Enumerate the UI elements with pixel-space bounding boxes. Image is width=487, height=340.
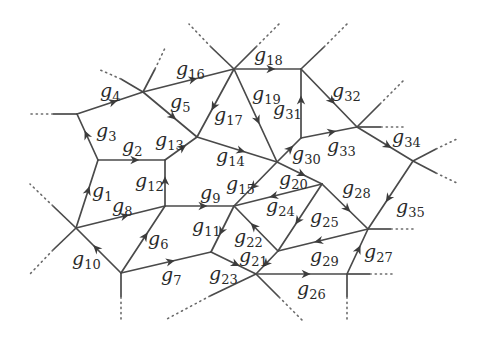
edge-label-g4: g4 — [100, 79, 120, 104]
edge-label-g24: g24 — [266, 194, 295, 219]
edge-label-g29: g29 — [310, 244, 339, 269]
edge-label-g22: g22 — [234, 225, 263, 250]
edge-label-g27: g27 — [364, 240, 393, 265]
edge-label-g35: g35 — [396, 195, 425, 220]
edge-label-g15: g15 — [226, 172, 255, 197]
edge-label-g25: g25 — [310, 205, 339, 230]
edge-g31 — [297, 69, 305, 138]
dangling-edge — [357, 81, 403, 127]
dangling-edge — [143, 46, 166, 92]
dangling-edge — [301, 24, 347, 69]
edge-label-g16: g16 — [176, 57, 205, 82]
dangling-edge — [30, 228, 76, 274]
directed-graph-diagram: g1g2g3g4g5g6g7g8g9g10g11g12g13g14g15g16g… — [0, 0, 487, 340]
dangling-edge — [189, 24, 234, 69]
edge-label-g11: g11 — [192, 214, 221, 239]
dangling-edge — [256, 274, 302, 320]
edge-label-g31: g31 — [273, 97, 302, 122]
edge-label-g26: g26 — [297, 277, 326, 302]
dangling-edge — [413, 161, 459, 184]
edge-label-g3: g3 — [96, 119, 116, 144]
edge-label-g12: g12 — [135, 169, 164, 194]
edge-label-g28: g28 — [342, 176, 371, 201]
edge-label-g5: g5 — [170, 90, 190, 115]
edge-label-g6: g6 — [148, 227, 168, 252]
arrowhead-icon — [139, 232, 148, 242]
edge-g9 — [165, 202, 234, 210]
edge-label-g1: g1 — [92, 179, 112, 204]
arrowhead-icon — [295, 215, 304, 225]
edge-g29 — [278, 229, 368, 251]
edge-label-g34: g34 — [392, 125, 421, 150]
edge-label-g17: g17 — [214, 103, 243, 128]
edge-label-g9: g9 — [200, 181, 220, 206]
arrowhead-icon — [386, 192, 394, 202]
edge-label-g33: g33 — [327, 134, 356, 159]
dangling-edge — [30, 184, 76, 228]
edge-label-g13: g13 — [155, 128, 184, 153]
edge-label-g2: g2 — [122, 134, 142, 159]
edge-label-g7: g7 — [161, 263, 181, 288]
edge-label-g32: g32 — [332, 79, 361, 104]
edge-label-g8: g8 — [112, 194, 132, 219]
edge-g2 — [98, 156, 165, 164]
edge-label-g18: g18 — [254, 43, 283, 68]
edge-label-g30: g30 — [292, 142, 321, 167]
edge-g3 — [77, 114, 98, 160]
